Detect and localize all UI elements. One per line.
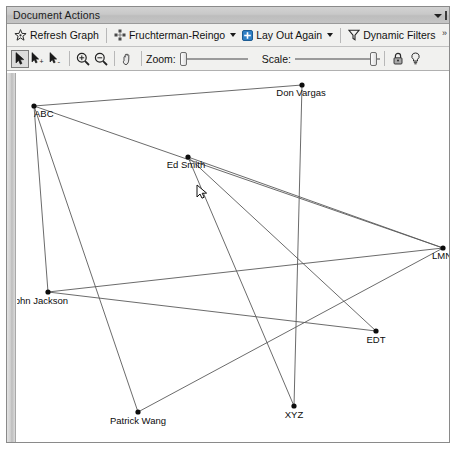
scale-slider-label: Scale:: [262, 53, 291, 65]
cursor-icon: [15, 52, 26, 65]
graph-viewport[interactable]: ABCDon VargasEd SmithLMNJohn JacksonEDTX…: [17, 73, 449, 442]
toolbar-primary: Refresh Graph Fruchterman-Reingo: [7, 24, 449, 47]
refresh-graph-label: Refresh Graph: [30, 29, 99, 41]
lightbulb-button[interactable]: [407, 50, 425, 68]
graph-edge[interactable]: [48, 248, 443, 292]
graph-node-label: Ed Smith: [167, 159, 206, 170]
pan-tool-button[interactable]: [119, 50, 137, 68]
window-titlebar: Document Actions: [7, 7, 449, 24]
graph-edge[interactable]: [294, 85, 302, 406]
screenshot-root: Document Actions Refresh Graph: [0, 0, 456, 449]
graph-edge[interactable]: [34, 106, 443, 248]
zoom-slider-thumb[interactable]: [180, 52, 187, 66]
layout-algorithm-label: Fruchterman-Reingo: [129, 29, 225, 41]
close-bar-icon[interactable]: [445, 11, 447, 20]
chevron-down-icon[interactable]: [230, 33, 236, 37]
window-title: Document Actions: [7, 9, 100, 21]
chevron-down-icon[interactable]: [327, 33, 333, 37]
toolbar-separator: [384, 51, 385, 66]
zoom-in-button[interactable]: [74, 50, 92, 68]
magnifier-minus-icon: [94, 52, 108, 66]
refresh-graph-button[interactable]: Refresh Graph: [11, 26, 102, 44]
toolbar-overflow-button[interactable]: »: [442, 28, 446, 38]
graph-edge[interactable]: [188, 157, 294, 406]
node-link-graph[interactable]: ABCDon VargasEd SmithLMNJohn JacksonEDTX…: [17, 73, 449, 442]
graph-edges: [34, 85, 443, 412]
graph-edge[interactable]: [138, 248, 443, 412]
graph-node-label: EDT: [367, 334, 386, 345]
hand-icon: [121, 52, 135, 66]
layout-grid-icon: [114, 29, 126, 41]
toolbar-separator: [106, 28, 107, 43]
document-actions-window: Document Actions Refresh Graph: [6, 6, 450, 443]
toolbar-separator: [141, 51, 142, 66]
dynamic-filters-label: Dynamic Filters: [363, 29, 435, 41]
svg-text:+: +: [39, 58, 43, 65]
graph-node-label: John Jackson: [17, 295, 68, 306]
graph-edge[interactable]: [188, 157, 443, 248]
graph-edge[interactable]: [48, 292, 376, 331]
toolbar-separator: [114, 51, 115, 66]
graph-edge[interactable]: [34, 85, 302, 106]
zoom-out-button[interactable]: [92, 50, 110, 68]
graph-node[interactable]: [45, 289, 50, 294]
layout-algorithm-dropdown[interactable]: Fruchterman-Reingo: [111, 26, 239, 44]
magnifier-plus-icon: [76, 52, 90, 66]
star-graph-icon: [14, 29, 27, 42]
lock-icon: [392, 52, 404, 65]
graph-node[interactable]: [291, 403, 296, 408]
graph-node[interactable]: [373, 328, 378, 333]
graph-node-label: LMN: [432, 250, 449, 261]
graph-node-label: Patrick Wang: [110, 415, 166, 426]
vertical-scrollbar[interactable]: [7, 73, 16, 442]
lay-out-again-button[interactable]: Lay Out Again: [239, 26, 336, 44]
graph-node[interactable]: [135, 409, 140, 414]
lock-button[interactable]: [389, 50, 407, 68]
graph-edge[interactable]: [34, 106, 138, 412]
scale-slider-track[interactable]: [295, 58, 380, 60]
toolbar-separator: [69, 51, 70, 66]
graph-edge[interactable]: [188, 157, 376, 331]
remove-select-tool-button[interactable]: -: [47, 50, 65, 68]
graph-canvas-area: ABCDon VargasEd SmithLMNJohn JacksonEDTX…: [7, 73, 449, 442]
funnel-icon: [348, 29, 360, 41]
cursor-minus-icon: -: [49, 52, 64, 65]
svg-text:-: -: [57, 57, 60, 65]
add-select-tool-button[interactable]: +: [29, 50, 47, 68]
graph-node-label: Don Vargas: [276, 87, 326, 98]
lay-out-again-label: Lay Out Again: [256, 29, 322, 41]
scale-slider[interactable]: Scale:: [262, 50, 380, 68]
toolbar-secondary: + -: [7, 47, 449, 71]
zoom-slider-label: Zoom:: [146, 53, 176, 65]
graph-node-label: XYZ: [285, 409, 304, 420]
zoom-slider-track[interactable]: [180, 58, 248, 60]
lightbulb-icon: [410, 52, 421, 65]
zoom-slider[interactable]: Zoom:: [146, 50, 248, 68]
layout-again-icon: [242, 30, 253, 41]
titlebar-controls: [434, 7, 447, 24]
select-tool-button[interactable]: [11, 50, 29, 68]
graph-node-label: ABC: [34, 108, 54, 119]
scale-slider-thumb[interactable]: [370, 52, 377, 66]
dynamic-filters-button[interactable]: Dynamic Filters: [345, 26, 438, 44]
chevron-down-icon[interactable]: [434, 14, 442, 18]
graph-edge[interactable]: [34, 106, 48, 292]
cursor-plus-icon: +: [31, 52, 46, 65]
toolbar-separator: [340, 28, 341, 43]
